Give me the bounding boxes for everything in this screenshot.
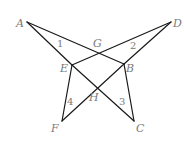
point-label-d: D [172,17,182,30]
point-label-h: H [88,91,99,104]
point-label-e: E [59,62,68,75]
point-label-c: C [136,122,145,135]
point-label-a: A [15,17,24,30]
angle-label-2: 2 [130,40,136,51]
point-label-f: F [50,122,59,135]
segment-ec [72,65,134,121]
point-label-b: B [125,62,134,75]
segment-ab [27,22,124,64]
angle-label-3: 3 [119,96,125,107]
geometry-diagram: ADEBFCGH 1234 [0,0,184,141]
segment-ae [27,22,72,65]
angle-label-1: 1 [57,38,63,49]
angle-label-4: 4 [67,96,73,107]
point-label-g: G [93,37,102,50]
segment-de [72,22,171,65]
